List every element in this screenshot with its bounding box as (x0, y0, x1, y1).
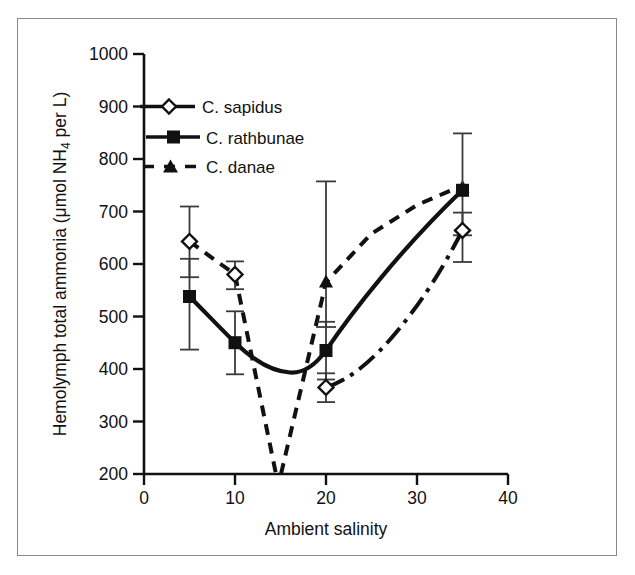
c-rathbunae-marker-35 (456, 184, 469, 197)
svg-text:Hemolymph total ammonia (μmol: Hemolymph total ammonia (μmol NH4 per L) (50, 92, 73, 437)
c-danae-marker-20 (319, 275, 333, 288)
x-axis-tick-labels: 0 10 20 30 40 (139, 488, 518, 508)
legend: C. sapidus C. rathbunae C. danae (140, 98, 304, 177)
y-tick-label-400: 400 (99, 359, 128, 379)
legend-marker-c-rathbunae-filled-square (167, 131, 180, 144)
legend-marker-c-sapidus-open-diamond (162, 100, 176, 114)
y-tick-label-300: 300 (99, 412, 128, 432)
ammonia-salinity-line-chart: 1000 900 800 700 600 500 400 300 200 0 1… (0, 0, 635, 575)
c-rathbunae-marker-10 (229, 336, 242, 349)
y-axis-ticks (133, 54, 144, 474)
legend-label-c-danae: C. danae (206, 158, 275, 177)
c-sapidus-marker-20 (319, 380, 334, 395)
legend-item-c-rathbunae[interactable]: C. rathbunae (146, 129, 304, 148)
legend-label-c-rathbunae: C. rathbunae (206, 129, 304, 148)
series-c-sapidus (182, 213, 472, 474)
x-axis-ticks (144, 474, 508, 485)
c-danae-line-lower (281, 186, 463, 475)
x-axis-title: Ambient salinity (265, 519, 388, 539)
y-tick-label-500: 500 (99, 307, 128, 327)
y-tick-label-1000: 1000 (89, 44, 128, 64)
y-tick-label-900: 900 (99, 97, 128, 117)
y-tick-label-800: 800 (99, 149, 128, 169)
y-axis-title-main: Hemolymph total ammonia (μmol NH (50, 149, 70, 436)
c-rathbunae-marker-20 (320, 344, 333, 357)
x-tick-label-10: 10 (225, 488, 245, 508)
y-tick-label-200: 200 (99, 464, 128, 484)
x-tick-label-0: 0 (139, 488, 149, 508)
y-tick-label-700: 700 (99, 202, 128, 222)
y-axis-title: Hemolymph total ammonia (μmol NH4 per L) (50, 92, 73, 437)
c-rathbunae-marker-5 (183, 290, 196, 303)
legend-item-c-sapidus[interactable]: C. sapidus (140, 98, 282, 117)
x-tick-label-20: 20 (316, 488, 336, 508)
y-axis-tick-labels: 1000 900 800 700 600 500 400 300 200 (89, 44, 128, 484)
x-tick-label-30: 30 (407, 488, 427, 508)
figure-container: 1000 900 800 700 600 500 400 300 200 0 1… (0, 0, 635, 575)
y-axis-title-tail: per L) (50, 92, 70, 143)
legend-item-c-danae[interactable]: C. danae (143, 158, 275, 177)
c-sapidus-line-right (326, 230, 463, 387)
legend-label-c-sapidus: C. sapidus (202, 98, 282, 117)
x-tick-label-40: 40 (498, 488, 518, 508)
y-tick-label-600: 600 (99, 254, 128, 274)
